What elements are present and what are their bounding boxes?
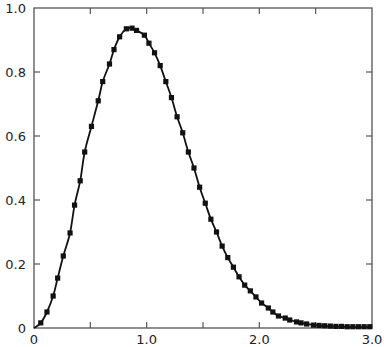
data-point-marker: [350, 324, 355, 329]
data-point-marker: [134, 28, 139, 33]
data-point-marker: [298, 320, 303, 325]
data-point-marker: [283, 315, 288, 320]
data-point-marker: [276, 313, 281, 318]
data-point-marker: [174, 114, 179, 119]
data-point-marker: [322, 323, 327, 328]
data-point-marker: [191, 165, 196, 170]
fit-line: [34, 28, 372, 328]
data-point-marker: [186, 149, 191, 154]
data-point-marker: [311, 323, 316, 328]
data-point-marker: [367, 324, 372, 329]
data-point-marker: [142, 33, 147, 38]
data-point-marker: [124, 26, 129, 31]
x-tick-label: 1.0: [136, 332, 157, 347]
data-point-marker: [180, 130, 185, 135]
data-point-marker: [328, 323, 333, 328]
tick-labels: 01.02.03.000.20.40.60.81.0: [5, 1, 382, 347]
data-point-marker: [345, 324, 350, 329]
data-point-marker: [362, 324, 367, 329]
data-point-marker: [89, 124, 94, 129]
data-point-marker: [270, 309, 275, 314]
data-point-marker: [231, 265, 236, 270]
data-point-marker: [158, 63, 163, 68]
y-tick-label: 1.0: [5, 1, 26, 16]
x-tick-label: 2.0: [249, 332, 270, 347]
y-tick-label: 0: [18, 321, 26, 336]
data-point-marker: [61, 253, 66, 258]
data-point-marker: [304, 321, 309, 326]
data-point-marker: [55, 275, 60, 280]
data-point-marker: [44, 309, 49, 314]
data-point-marker: [197, 185, 202, 190]
data-point-marker: [356, 324, 361, 329]
y-tick-label: 0.4: [5, 193, 26, 208]
x-tick-label: 0: [30, 332, 38, 347]
plot-frame: [34, 8, 372, 328]
data-point-marker: [294, 319, 299, 324]
data-point-marker: [117, 34, 122, 39]
data-point-marker: [78, 178, 83, 183]
data-point-marker: [248, 288, 253, 293]
data-point-marker: [316, 323, 321, 328]
data-point-marker: [169, 95, 174, 100]
data-point-marker: [100, 79, 105, 84]
data-point-marker: [96, 98, 101, 103]
data-point-marker: [152, 50, 157, 55]
axis-ticks: [34, 8, 372, 328]
data-point-marker: [287, 317, 292, 322]
data-point-marker: [208, 217, 213, 222]
data-markers: [38, 26, 372, 330]
y-tick-label: 0.2: [5, 257, 26, 272]
data-point-marker: [259, 300, 264, 305]
data-point-marker: [266, 305, 271, 310]
data-point-marker: [214, 229, 219, 234]
data-point-marker: [146, 41, 151, 46]
data-point-marker: [67, 230, 72, 235]
y-tick-label: 0.6: [5, 129, 26, 144]
x-tick-label: 3.0: [362, 332, 383, 347]
data-point-marker: [220, 243, 225, 248]
data-point-marker: [253, 294, 258, 299]
data-point-marker: [339, 324, 344, 329]
data-point-marker: [203, 201, 208, 206]
data-point-marker: [225, 255, 230, 260]
data-point-marker: [38, 320, 43, 325]
data-point-marker: [72, 203, 77, 208]
data-point-marker: [51, 293, 56, 298]
data-point-marker: [163, 79, 168, 84]
chart-canvas: 01.02.03.000.20.40.60.81.0: [0, 0, 384, 347]
data-point-marker: [242, 283, 247, 288]
data-point-marker: [82, 149, 87, 154]
data-point-marker: [236, 274, 241, 279]
y-tick-label: 0.8: [5, 65, 26, 80]
data-point-marker: [111, 47, 116, 52]
data-point-marker: [107, 61, 112, 66]
data-point-marker: [129, 26, 134, 31]
data-point-marker: [333, 324, 338, 329]
